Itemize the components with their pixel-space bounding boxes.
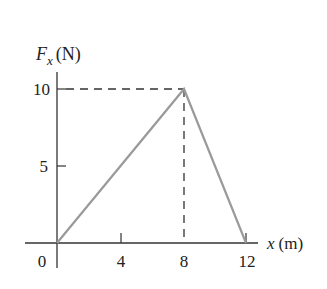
x-tick-label-4: 4 [117, 252, 126, 271]
force-curve [57, 89, 246, 243]
y-tick-label-10: 10 [33, 80, 50, 99]
x-tick-label-8: 8 [180, 252, 189, 271]
y-axis-label: Fx(N) [35, 44, 81, 68]
x-axis-label: x(m) [266, 234, 303, 253]
x-tick-label-0: 0 [38, 252, 47, 271]
x-tick-label-12: 12 [239, 252, 256, 271]
y-tick-label-5: 5 [40, 157, 49, 176]
force-position-chart: Fx(N) 10 5 0 4 8 12 x(m) [0, 0, 327, 289]
